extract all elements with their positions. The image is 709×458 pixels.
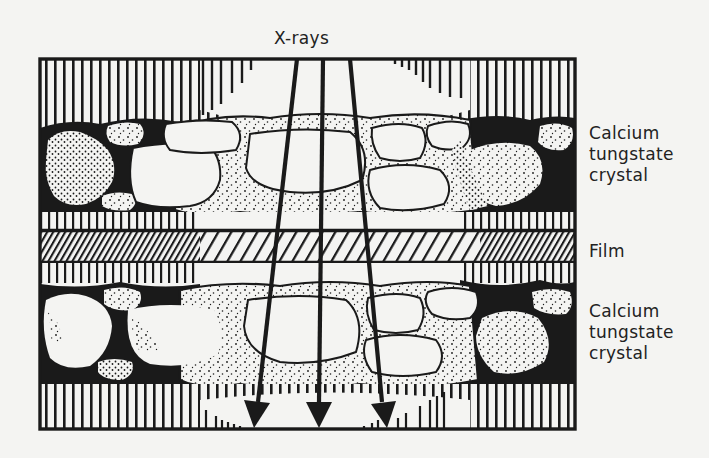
diagram-body	[40, 59, 575, 430]
film-layer	[40, 231, 575, 262]
xrays-label: X-rays	[274, 28, 329, 49]
intensifying-screen-diagram	[0, 0, 709, 458]
bottom-phosphor-layer	[40, 280, 575, 391]
bottom-crystal-label-line-1: Calcium	[589, 301, 674, 322]
bottom-screen-base	[40, 384, 575, 430]
top-thin-layer	[40, 212, 575, 230]
bottom-crystal-label: Calcium tungstate crystal	[589, 301, 674, 364]
top-crystal-label-line-2: tungstate	[589, 144, 674, 165]
film-label: Film	[589, 241, 625, 262]
top-crystal-label: Calcium tungstate crystal	[589, 123, 674, 186]
top-crystal-label-line-3: crystal	[589, 165, 674, 186]
top-crystal-label-line-1: Calcium	[589, 123, 674, 144]
bottom-crystal-label-line-2: tungstate	[589, 322, 674, 343]
bottom-crystal-label-line-3: crystal	[589, 343, 674, 364]
bottom-thin-layer	[40, 263, 575, 283]
top-phosphor-layer	[40, 114, 575, 215]
